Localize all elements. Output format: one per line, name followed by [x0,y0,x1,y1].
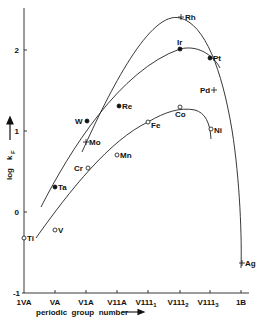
label-Pd: Pd [200,86,210,95]
chart: 2 1 0 -1 log k F 1VA VA V1A V11A V1111 V… [0,0,261,320]
x-tick-V11A: V11A [107,298,127,307]
marker-Pd [211,87,217,93]
x-tick-V1A: V1A [78,298,94,307]
x-tick-V111-3: V1113 [197,298,219,308]
y-tick-1: 1 [15,127,20,136]
label-Co: Co [175,110,186,119]
curve-5d [41,48,220,207]
y-tick-0: 0 [15,208,20,217]
x-tick-labels: 1VA VA V1A V11A V1111 V1112 V1113 1B [17,298,247,308]
marker-Cr [86,166,90,170]
y-title-F: F [10,150,16,154]
curves [36,17,241,268]
point-labels: Ti V Ta Cr Mo W Mn Re Fe Co Ni Rh Ir Pd … [27,13,256,268]
marker-Fe [146,120,150,124]
marker-W [85,119,89,123]
label-Ti: Ti [27,234,34,243]
marker-Re [117,104,121,108]
x-tick-1B: 1B [236,298,246,307]
label-Ta: Ta [58,183,67,192]
marker-V [53,228,57,232]
marker-Co [178,105,182,109]
marker-Mn [115,153,119,157]
label-Ir: Ir [177,38,182,47]
marker-Pt [208,56,212,60]
label-W: W [75,117,83,126]
y-tick-minus1: -1 [13,289,21,298]
label-Re: Re [122,102,133,111]
x-tick-V111-1: V1111 [135,298,157,308]
y-arrow-icon [7,117,13,140]
x-tick-V111-2: V1112 [167,298,189,308]
label-Pt: Pt [213,54,221,63]
label-Mn: Mn [120,151,132,160]
y-tick-labels: 2 1 0 -1 [13,46,21,298]
marker-Ta [53,185,57,189]
x-axis-title: periodic group number [36,308,128,317]
markers [22,14,245,266]
marker-Ir [178,47,182,51]
curve-3d [36,109,211,238]
marker-Ti [22,236,26,240]
y-title-k: k [5,155,14,160]
label-Ni: Ni [214,126,222,135]
marker-Ni [209,127,213,131]
y-axis-title: log k F [5,150,16,180]
label-Cr: Cr [74,164,83,173]
label-Fe: Fe [151,121,161,130]
label-Ag: Ag [245,259,256,268]
label-Rh: Rh [185,13,196,22]
y-tick-2: 2 [15,46,20,55]
y-title-log: log [5,168,14,180]
label-Mo: Mo [89,138,101,147]
label-V: V [58,226,64,235]
x-tick-1VA: 1VA [17,298,32,307]
x-tick-VA: VA [50,298,61,307]
